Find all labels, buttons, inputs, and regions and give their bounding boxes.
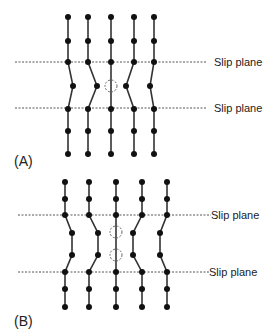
atom	[69, 252, 75, 258]
atom	[62, 269, 68, 275]
atom	[86, 269, 92, 275]
slip-plane-label: Slip plane	[214, 102, 262, 114]
atom	[62, 212, 68, 218]
atom	[65, 106, 71, 112]
panel-label: (A)	[14, 153, 33, 169]
atom	[85, 128, 91, 134]
atom	[164, 179, 170, 185]
panel-label: (B)	[14, 313, 33, 329]
dislocation-diagram: Slip planeSlip plane(A) Slip planeSlip p…	[0, 0, 274, 334]
atom	[113, 286, 119, 292]
atom	[139, 286, 145, 292]
atom	[164, 304, 170, 310]
atom	[130, 230, 136, 236]
atom	[113, 196, 119, 202]
atom	[151, 14, 157, 20]
atom	[139, 212, 145, 218]
atom	[113, 179, 119, 185]
atom	[164, 212, 170, 218]
atom	[131, 38, 137, 44]
atom	[164, 269, 170, 275]
atom	[108, 151, 114, 157]
atom	[131, 14, 137, 20]
atom	[65, 151, 71, 157]
atom	[65, 59, 71, 65]
atom	[69, 230, 75, 236]
atom	[85, 38, 91, 44]
atom	[130, 252, 136, 258]
atom	[108, 59, 114, 65]
slip-plane-label: Slip plane	[214, 56, 262, 68]
atom	[131, 106, 137, 112]
atom	[151, 106, 157, 112]
atom	[94, 83, 100, 89]
atom	[151, 38, 157, 44]
atom	[131, 59, 137, 65]
atom	[95, 252, 101, 258]
atom	[86, 304, 92, 310]
atom	[113, 212, 119, 218]
atom	[151, 59, 157, 65]
atom	[85, 151, 91, 157]
atom	[95, 230, 101, 236]
atom	[113, 304, 119, 310]
slip-plane-label: Slip plane	[209, 266, 257, 278]
atom	[151, 151, 157, 157]
atom	[62, 196, 68, 202]
atom	[65, 38, 71, 44]
atom	[108, 14, 114, 20]
atom	[86, 179, 92, 185]
atom	[85, 59, 91, 65]
atom	[164, 196, 170, 202]
atom	[113, 269, 119, 275]
atom	[65, 14, 71, 20]
atom	[139, 269, 145, 275]
atom	[85, 106, 91, 112]
atom	[139, 196, 145, 202]
atom	[151, 128, 157, 134]
atom	[108, 128, 114, 134]
atom	[62, 286, 68, 292]
atom	[131, 151, 137, 157]
atom	[157, 230, 163, 236]
atom	[123, 83, 129, 89]
atom	[70, 83, 76, 89]
panel-b: Slip planeSlip plane(B)	[14, 179, 259, 329]
atom	[65, 128, 71, 134]
atom	[62, 304, 68, 310]
atom	[108, 38, 114, 44]
atom	[86, 286, 92, 292]
atom	[157, 252, 163, 258]
atom	[147, 83, 153, 89]
atom	[131, 128, 137, 134]
panel-a: Slip planeSlip plane(A)	[14, 14, 262, 169]
atom	[85, 14, 91, 20]
atom	[164, 286, 170, 292]
atom	[86, 196, 92, 202]
atom	[139, 304, 145, 310]
atom	[108, 106, 114, 112]
atom	[139, 179, 145, 185]
atom	[86, 212, 92, 218]
slip-plane-label: Slip plane	[211, 209, 259, 221]
atom	[62, 179, 68, 185]
